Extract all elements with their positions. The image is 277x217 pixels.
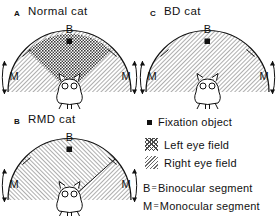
diagram-normal-cat: B M M <box>0 14 139 110</box>
label-binocular-a: B <box>66 23 73 35</box>
legend-item-binocular-segment: B = Binocular segment <box>143 182 253 194</box>
panel-normal-cat: A Normal cat <box>0 0 139 110</box>
arrow-head-left-bottom-c <box>140 89 145 94</box>
monocular-arc-right-b <box>135 169 137 202</box>
legend-label-left-eye-field: Left eye field <box>164 139 229 151</box>
left-eye-field-swatch-icon <box>145 138 158 151</box>
label-binocular-c: B <box>204 23 211 35</box>
arrow-head-left-top-a <box>2 61 7 66</box>
label-monocular-right-a: M <box>121 70 130 82</box>
arrow-head-right-top-c <box>270 61 275 66</box>
arrow-head-right-bottom-a <box>132 89 137 94</box>
arrow-head-right-top-b <box>132 169 137 174</box>
svg-rmd-cat: B M M <box>0 122 139 216</box>
arrow-head-right-bottom-c <box>270 89 275 94</box>
arrow-head-right-top-a <box>132 61 137 66</box>
monocular-arc-right-a <box>135 61 137 94</box>
legend-label-right-eye-field: Right eye field <box>164 157 237 169</box>
panel-bd-cat: C BD cat <box>138 0 277 110</box>
fixation-object-c <box>205 39 211 45</box>
label-monocular-right-b: M <box>121 178 130 190</box>
legend-item-fixation-object: Fixation object <box>147 116 232 128</box>
arrow-head-left-top-c <box>140 61 145 66</box>
legend: Fixation object Left eye field Right eye… <box>143 112 277 216</box>
arrow-head-left-bottom-a <box>2 89 7 94</box>
legend-sep-binocular: = <box>152 182 157 192</box>
panel-rmd-cat: B RMD cat <box>0 108 139 216</box>
legend-item-left-eye-field: Left eye field <box>145 138 229 151</box>
fixation-object-a <box>67 39 73 45</box>
figure-root: A Normal cat <box>0 0 277 216</box>
legend-sep-monocular: = <box>153 200 158 210</box>
legend-item-right-eye-field: Right eye field <box>145 156 237 169</box>
monocular-arc-right-c <box>273 61 275 94</box>
diagram-rmd-cat: B M M <box>0 122 139 216</box>
cat-head-b <box>57 182 83 217</box>
legend-item-monocular-segment: M = Monocular segment <box>143 200 260 212</box>
arrow-head-left-bottom-b <box>2 197 7 202</box>
svg-normal-cat: B M M <box>0 14 139 110</box>
svg-bd-cat: B M M <box>138 14 277 110</box>
legend-label-binocular-segment: Binocular segment <box>158 182 253 194</box>
monocular-arc-left-c <box>140 61 142 94</box>
fixation-object-b <box>67 147 73 153</box>
fixation-square-icon <box>147 120 152 125</box>
legend-key-monocular: M <box>143 200 152 212</box>
cat-head-a <box>57 74 83 110</box>
monocular-arc-left-a <box>2 61 4 94</box>
label-monocular-right-c: M <box>259 70 268 82</box>
right-eye-field-swatch-icon <box>145 156 158 169</box>
label-monocular-left-a: M <box>9 70 18 82</box>
arrow-head-right-bottom-b <box>132 197 137 202</box>
monocular-arc-left-b <box>2 169 4 202</box>
cat-head-c <box>195 74 221 110</box>
legend-label-fixation-object: Fixation object <box>158 116 232 128</box>
label-monocular-left-c: M <box>147 70 156 82</box>
label-binocular-b: B <box>66 131 73 143</box>
legend-key-binocular: B <box>143 182 151 194</box>
label-monocular-left-b: M <box>9 178 18 190</box>
diagram-bd-cat: B M M <box>138 14 277 110</box>
legend-label-monocular-segment: Monocular segment <box>160 200 260 212</box>
arrow-head-left-top-b <box>2 169 7 174</box>
